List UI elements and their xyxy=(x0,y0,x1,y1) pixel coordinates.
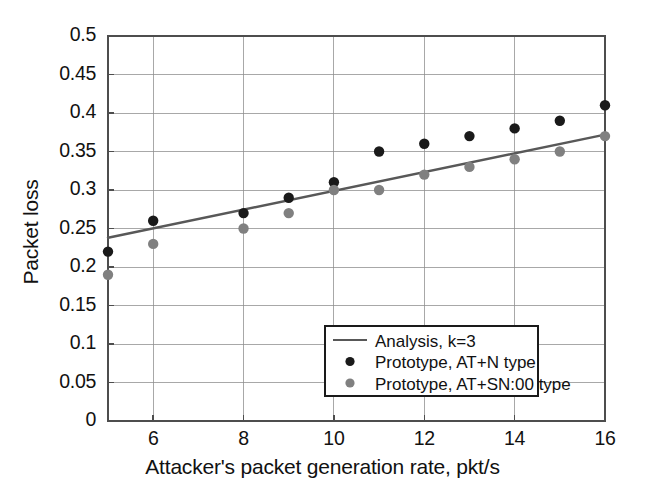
data-point xyxy=(148,239,158,249)
data-point xyxy=(509,154,519,164)
y-tick-label: 0 xyxy=(0,408,96,431)
x-tick-label: 16 xyxy=(575,427,635,450)
x-tick-label: 14 xyxy=(485,427,545,450)
data-point xyxy=(419,169,429,179)
y-tick-label: 0.25 xyxy=(0,216,96,239)
legend-label: Analysis, k=3 xyxy=(375,332,476,351)
x-tick-label: 12 xyxy=(394,427,454,450)
x-tick-label: 6 xyxy=(123,427,183,450)
x-tick-label: 8 xyxy=(214,427,274,450)
y-tick-label: 0.1 xyxy=(0,331,96,354)
scatter-plot: Analysis, k=3Prototype, AT+N typePrototy… xyxy=(0,0,645,501)
data-point xyxy=(148,216,158,226)
data-point xyxy=(509,123,519,133)
y-tick-label: 0.45 xyxy=(0,62,96,85)
data-point xyxy=(103,246,113,256)
data-point xyxy=(419,139,429,149)
data-point xyxy=(284,208,294,218)
series-line-analysis xyxy=(108,135,605,238)
data-point xyxy=(555,116,565,126)
chart-figure: Analysis, k=3Prototype, AT+N typePrototy… xyxy=(0,0,645,501)
y-tick-label: 0.2 xyxy=(0,254,96,277)
data-point xyxy=(374,146,384,156)
data-point xyxy=(600,131,610,141)
data-point xyxy=(555,146,565,156)
data-point xyxy=(103,270,113,280)
y-tick-label: 0.3 xyxy=(0,177,96,200)
x-axis-title: Attacker's packet generation rate, pkt/s xyxy=(0,455,645,479)
legend-label: Prototype, AT+N type xyxy=(375,353,536,372)
x-tick-label: 10 xyxy=(304,427,364,450)
data-point xyxy=(329,185,339,195)
data-point xyxy=(464,131,474,141)
legend-label: Prototype, AT+SN:00 type xyxy=(375,375,571,394)
y-tick-label: 0.4 xyxy=(0,100,96,123)
legend-swatch-marker xyxy=(345,357,354,366)
data-point xyxy=(238,208,248,218)
legend-swatch-marker xyxy=(345,378,354,387)
data-point xyxy=(374,185,384,195)
data-point xyxy=(284,193,294,203)
data-point xyxy=(464,162,474,172)
data-point xyxy=(238,223,248,233)
data-point xyxy=(600,100,610,110)
y-tick-label: 0.35 xyxy=(0,139,96,162)
y-tick-label: 0.05 xyxy=(0,370,96,393)
y-tick-label: 0.15 xyxy=(0,293,96,316)
y-tick-label: 0.5 xyxy=(0,23,96,46)
